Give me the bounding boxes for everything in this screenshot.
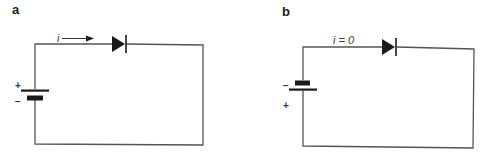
circuit-diagram: + − i − + i = 0 xyxy=(0,0,486,157)
circuit-b: − + i = 0 xyxy=(283,34,474,148)
battery-plus-sign: + xyxy=(15,80,21,91)
battery-b xyxy=(289,81,317,91)
diode-a xyxy=(112,35,126,53)
battery-minus-sign: − xyxy=(283,80,289,91)
battery-plus-sign: + xyxy=(283,100,289,111)
wire-loop-a xyxy=(35,44,203,145)
battery-long-plate xyxy=(289,89,317,91)
battery-short-plate xyxy=(295,81,310,86)
current-label-b: i = 0 xyxy=(333,34,355,46)
current-label-a: i xyxy=(57,32,60,44)
wire-loop-b xyxy=(303,47,474,148)
right-arrow-icon xyxy=(62,36,94,42)
diode-triangle xyxy=(112,36,125,52)
battery-a xyxy=(21,90,49,101)
battery-long-plate xyxy=(21,90,49,92)
diode-b xyxy=(382,38,396,56)
battery-minus-sign: − xyxy=(15,96,21,107)
battery-short-plate xyxy=(27,96,43,101)
diode-triangle xyxy=(382,39,395,55)
circuit-a: + − i xyxy=(15,32,203,145)
